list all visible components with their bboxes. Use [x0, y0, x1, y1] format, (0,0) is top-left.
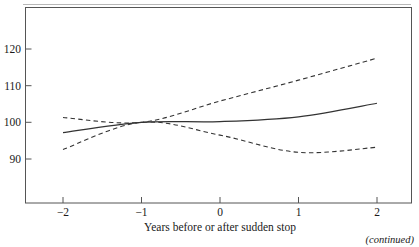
x-tick-label: −2 — [57, 206, 69, 218]
figure-panel: 120 110 100 90 −2 −1 0 1 2 Years before … — [0, 0, 419, 247]
y-axis-ticks — [26, 49, 32, 159]
y-tick-label: 110 — [4, 80, 21, 92]
series-line-3 — [63, 122, 377, 153]
x-tick-label: 2 — [374, 206, 380, 218]
x-axis-title: Years before or after sudden stop — [144, 221, 296, 234]
y-tick-label: 100 — [4, 116, 22, 128]
series-line-2 — [63, 58, 377, 123]
series-line-1 — [63, 103, 377, 132]
y-tick-label: 120 — [4, 43, 22, 55]
x-tick-label: −1 — [135, 206, 147, 218]
series-layer — [63, 58, 377, 153]
y-axis-tick-labels: 120 110 100 90 — [4, 43, 22, 165]
x-tick-label: 0 — [217, 206, 223, 218]
plot-frame — [26, 8, 412, 204]
x-tick-label: 1 — [296, 206, 302, 218]
chart-canvas: 120 110 100 90 −2 −1 0 1 2 Years before … — [0, 0, 419, 247]
x-axis-ticks — [63, 197, 377, 203]
x-axis-tick-labels: −2 −1 0 1 2 — [57, 206, 380, 218]
continued-note: (continued) — [366, 234, 414, 245]
y-tick-label: 90 — [10, 153, 22, 165]
